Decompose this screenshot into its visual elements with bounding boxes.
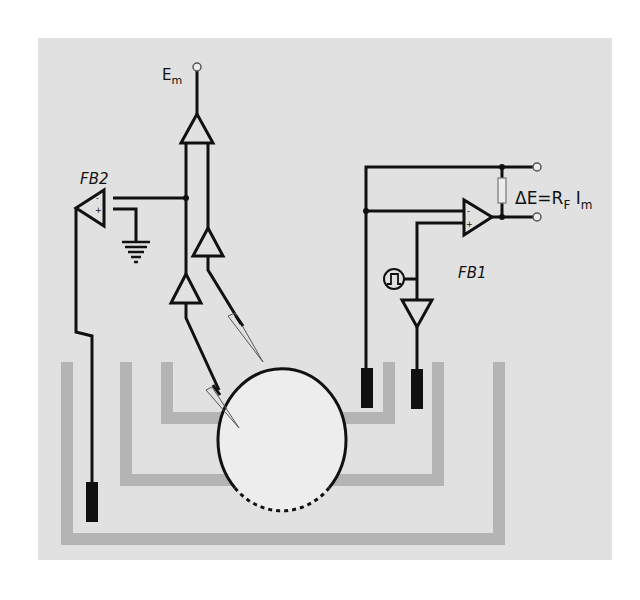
top-right-terminal (533, 163, 541, 171)
delta-e-equation: ΔE=RF Im (515, 188, 592, 212)
current-sense-electrode (361, 368, 373, 408)
fb2-plus-sign: + (95, 206, 102, 215)
pipette-2 (228, 313, 263, 362)
fb1-opamp (464, 200, 492, 235)
buffer-amplifier-2 (193, 228, 223, 256)
fb2-label: FB2 (80, 170, 108, 188)
feedback-resistor (498, 178, 506, 203)
fb2-bath-electrode (86, 482, 98, 522)
em-label: Em (162, 66, 182, 87)
pulse-electrode (411, 369, 423, 409)
fb2-minus-sign: - (96, 194, 99, 203)
pulse-driver-amplifier (402, 300, 432, 327)
circuit-diagram: Em FB2 FB1 ΔE=RF Im - + - + (0, 0, 640, 600)
pulse-generator-icon (384, 269, 404, 289)
ground-icon (122, 242, 150, 262)
em-terminal (193, 63, 201, 71)
fb1-plus-sign: + (466, 220, 473, 229)
amplifiers (76, 114, 492, 327)
cell (218, 369, 346, 511)
fb1-label: FB1 (458, 264, 486, 282)
em-buffer-amplifier (181, 114, 213, 143)
buffer-amplifier-1 (171, 274, 201, 303)
fb1-minus-sign: - (467, 207, 470, 216)
bottom-right-terminal (533, 213, 541, 221)
